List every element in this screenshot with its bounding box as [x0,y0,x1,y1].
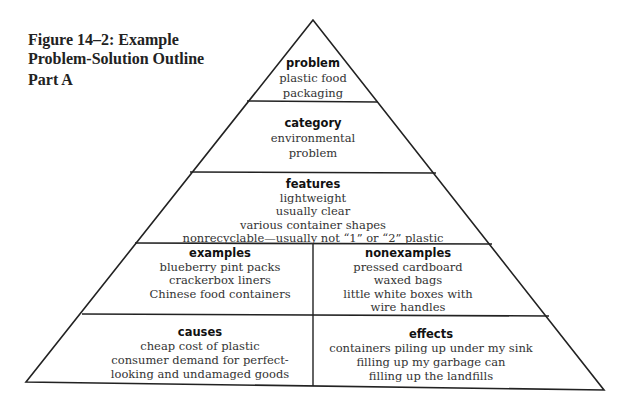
category-line: environmental [228,131,398,146]
category-line: problem [228,146,398,161]
examples-heading: examples [130,247,310,261]
examples-line: blueberry pint packs [130,261,310,275]
level-category: category environmental problem [228,116,398,161]
nonexamples-line: little white boxes with [318,288,498,302]
examples-line: Chinese food containers [130,288,310,302]
features-line: usually clear [163,205,463,219]
examples-line: crackerbox liners [130,274,310,288]
features-heading: features [163,178,463,192]
effects-line: filling up my garbage can [316,355,546,369]
category-heading: category [228,116,398,131]
causes-line: cheap cost of plastic [100,339,300,353]
level-examples: examples blueberry pint packs crackerbox… [130,247,310,301]
level-causes: causes cheap cost of plastic consumer de… [100,325,300,381]
nonexamples-line: wire handles [318,301,498,315]
features-line: various container shapes [163,219,463,233]
effects-line: filling up the landfills [316,369,546,383]
level-nonexamples: nonexamples pressed cardboard waxed bags… [318,247,498,315]
effects-line: containers piling up under my sink [316,341,546,355]
level-features: features lightweight usually clear vario… [163,178,463,246]
causes-heading: causes [100,325,300,339]
level-effects: effects containers piling up under my si… [316,327,546,383]
problem-heading: problem [243,56,383,71]
causes-line: consumer demand for perfect- [100,353,300,367]
effects-heading: effects [316,327,546,341]
nonexamples-line: pressed cardboard [318,261,498,275]
features-line: lightweight [163,192,463,206]
nonexamples-heading: nonexamples [318,247,498,261]
features-line: nonrecyclable—usually not “1” or “2” pla… [163,232,463,246]
nonexamples-line: waxed bags [318,274,498,288]
causes-line: looking and undamaged goods [100,367,300,381]
level-problem: problem plastic food packaging [243,56,383,101]
problem-line: packaging [243,86,383,101]
problem-line: plastic food [243,71,383,86]
